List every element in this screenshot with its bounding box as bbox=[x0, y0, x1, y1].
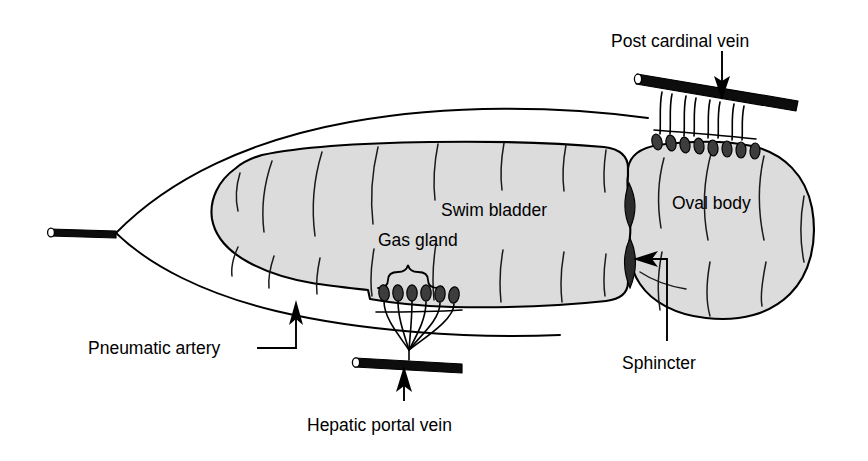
swim-bladder-body-shape bbox=[211, 142, 632, 308]
label-post-cardinal-vein: Post cardinal vein bbox=[611, 31, 749, 51]
label-sphincter: Sphincter bbox=[622, 353, 696, 373]
swim-bladder-diagram: Post cardinal vein Swim bladder Gas glan… bbox=[0, 0, 868, 461]
gas-gland-cell bbox=[421, 285, 431, 301]
label-hepatic-portal-vein: Hepatic portal vein bbox=[307, 415, 452, 435]
rete-mirabile-capillaries bbox=[376, 301, 462, 360]
post-cardinal-vein-lumen-cap bbox=[634, 74, 641, 84]
capillary-cell bbox=[736, 142, 746, 158]
gas-gland-cell bbox=[407, 285, 417, 301]
pneumatic-artery-tube bbox=[50, 229, 116, 238]
gas-gland-cell bbox=[392, 284, 404, 301]
capillary-cell bbox=[722, 141, 733, 158]
diagram-canvas: Post cardinal vein Swim bladder Gas glan… bbox=[0, 0, 868, 461]
hepatic-portal-vein bbox=[352, 358, 462, 373]
pneumatic-artery-lumen-cap bbox=[48, 228, 55, 237]
capillary-cell bbox=[750, 143, 761, 160]
hepatic-portal-vein-annotation bbox=[396, 366, 412, 400]
swim-bladder-main-chamber bbox=[211, 142, 632, 308]
label-swim-bladder: Swim bladder bbox=[441, 200, 547, 220]
hepatic-portal-vein-lumen-cap bbox=[352, 358, 359, 367]
pneumatic-artery bbox=[48, 228, 116, 238]
label-pneumatic-artery: Pneumatic artery bbox=[88, 338, 221, 358]
oval-body-shape bbox=[628, 142, 814, 319]
oval-body bbox=[628, 142, 814, 319]
gas-gland-cell bbox=[434, 285, 446, 302]
label-oval-body: Oval body bbox=[672, 193, 751, 213]
label-gas-gland: Gas gland bbox=[378, 230, 458, 250]
pneumatic-artery-annotation bbox=[258, 300, 303, 348]
